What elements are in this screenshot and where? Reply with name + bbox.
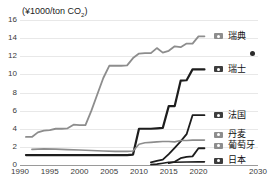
legend-label-法国[interactable]: 法国	[228, 111, 246, 120]
legend-marker	[214, 158, 223, 164]
series-line	[32, 140, 205, 151]
x-tick-label: 1990	[11, 167, 29, 176]
x-tick-label: 1995	[41, 167, 59, 176]
y-axis-unit-label: (¥1000/ton CO2)	[22, 6, 87, 18]
series-line	[151, 115, 205, 162]
y-tick-label: 4	[1, 125, 17, 133]
unit-prefix: (¥1000/ton CO	[22, 6, 81, 16]
chart-root: (¥1000/ton CO2) 0246810121416 1990199520…	[0, 0, 277, 182]
legend-marker	[214, 66, 223, 72]
x-tick-label: 2015	[160, 167, 178, 176]
legend-label-丹麦[interactable]: 丹麦	[228, 130, 246, 139]
legend-marker	[214, 33, 223, 39]
series-line	[26, 36, 205, 137]
x-tick-label: 2000	[71, 167, 89, 176]
x-axis-line	[20, 165, 258, 166]
legend-label-葡萄牙[interactable]: 葡萄牙	[228, 141, 255, 150]
legend-marker	[214, 112, 223, 118]
x-tick-label: 2010	[130, 167, 148, 176]
y-tick-label: 8	[1, 89, 17, 97]
y-tick-label: 12	[1, 52, 17, 60]
y-tick-label: 10	[1, 70, 17, 78]
legend-marker	[214, 143, 223, 149]
legend-label-瑞典[interactable]: 瑞典	[228, 32, 246, 41]
series-line	[151, 162, 205, 165]
x-tick-label: 2020	[190, 167, 208, 176]
x-axis-ticks: 19901995200020052010201520202030	[20, 167, 258, 179]
legend-label-日本[interactable]: 日本	[228, 156, 246, 165]
y-axis-ticks: 0246810121416	[0, 20, 17, 165]
isolated-marker-dot	[250, 51, 255, 56]
y-tick-label: 2	[1, 143, 17, 151]
y-tick-label: 14	[1, 34, 17, 42]
legend-marker	[214, 132, 223, 138]
series-line	[169, 148, 205, 163]
legend-label-瑞士[interactable]: 瑞士	[228, 65, 246, 74]
y-tick-label: 6	[1, 107, 17, 115]
x-tick-label: 2030	[249, 167, 267, 176]
x-tick-label: 2005	[100, 167, 118, 176]
series-line	[26, 69, 205, 155]
y-tick-label: 16	[1, 16, 17, 24]
unit-suffix: )	[84, 6, 87, 16]
